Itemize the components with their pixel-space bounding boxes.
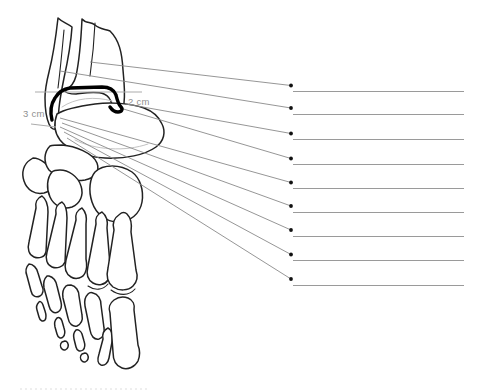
phalanx-3-middle [74,330,85,351]
phalanx-2-proximal [85,293,105,340]
answer-line-6[interactable] [293,212,464,213]
answer-dot-2 [289,106,293,110]
answer-dot-8 [289,253,293,257]
answer-line-5[interactable] [293,188,464,189]
answer-dot-4 [289,157,293,161]
answer-dot-3 [289,132,293,136]
answer-line-4[interactable] [293,164,464,165]
phalanx-3-distal [81,353,89,362]
cuboid-bone [90,166,143,222]
skeleton-illustration: 3 cm 2 cm [0,0,478,390]
answer-line-7[interactable] [293,236,464,237]
phalanx-5-proximal [26,264,43,297]
phalanx-1-proximal [109,297,139,369]
answer-dot-1 [289,84,293,88]
answer-line-9[interactable] [293,285,464,286]
answer-line-3[interactable] [293,139,464,140]
phalanx-4-proximal [44,276,62,313]
answer-dot-6 [289,204,293,208]
phalanx-3-proximal [63,285,83,326]
metatarsal-3 [65,208,86,278]
answer-line-2[interactable] [293,114,464,115]
phalanx-4-middle [55,318,65,338]
figure-canvas: 3 cm 2 cm [0,0,478,390]
phalanx-4-distal [61,341,69,350]
metatarsal-4 [46,202,67,268]
metatarsal-1 [107,213,137,290]
measurement-label-3cm: 3 cm [23,108,45,119]
answer-dot-7 [289,228,293,232]
answer-line-8[interactable] [293,260,464,261]
answer-dot-9 [289,277,293,281]
answer-line-1[interactable] [293,91,464,92]
metatarsal-5 [28,196,48,258]
answer-dot-5 [289,181,293,185]
phalanx-5-distal [37,302,47,321]
